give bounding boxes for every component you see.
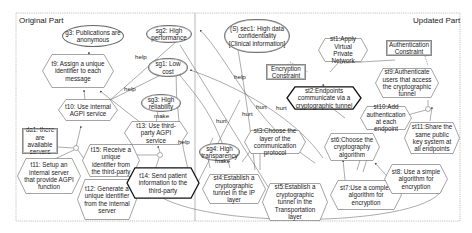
updated-part-title: Updated Part bbox=[413, 16, 460, 25]
task-t9[interactable]: t9: Assign a unique identifier to each m… bbox=[42, 54, 114, 88]
task-t10[interactable]: t10: Use internal AGPI service bbox=[58, 99, 118, 121]
softgoal-sg2[interactable]: sg2: High performance bbox=[146, 25, 192, 43]
security-task-st5[interactable]: st5:Establish a cryptographic tunnel in … bbox=[262, 183, 328, 221]
goal-model-diagram: Original Part Updated Part g3: Publicati… bbox=[0, 0, 472, 233]
security-task-st3[interactable]: st3:Choose the layer of the communicatio… bbox=[244, 130, 306, 154]
edge-label-make: make bbox=[154, 112, 169, 119]
security-task-st1[interactable]: st1:Apply Virtual Private Network bbox=[318, 38, 368, 62]
security-task-st2[interactable]: st2:Endpoints communicate via a cryptogr… bbox=[286, 86, 362, 110]
softgoal-sg3[interactable]: sg3: High reliability bbox=[141, 94, 181, 112]
edge-label-help: help bbox=[178, 138, 190, 145]
edge-label-hurt: hurt bbox=[256, 103, 267, 110]
task-t14[interactable]: t14: Send patient information to the thi… bbox=[126, 167, 200, 199]
edge-label-help: help bbox=[124, 85, 136, 92]
edge-label-make: make bbox=[215, 157, 230, 164]
security-task-st11[interactable]: st11:Share the same public key system at… bbox=[404, 122, 460, 154]
edge-label-hurt: hurt bbox=[216, 117, 227, 124]
edge-label-hurt: hurt bbox=[242, 110, 253, 117]
security-task-st9[interactable]: st9:Authenticate users that access the c… bbox=[375, 68, 439, 98]
goal-g3[interactable]: g3: Publications are anonymous bbox=[62, 25, 124, 47]
edge-label-help: help bbox=[234, 73, 246, 80]
edge-label-hurt: hurt bbox=[276, 104, 287, 111]
edge-label-help: help bbox=[135, 53, 147, 60]
original-part-title: Original Part bbox=[19, 16, 63, 25]
security-task-st6[interactable]: st6:Choose the cryptography algorithm bbox=[324, 133, 380, 161]
softgoal-sg1[interactable]: sg1: Low cost bbox=[148, 58, 188, 77]
domain-assumption-da1[interactable]: da1: there are available servers bbox=[22, 128, 58, 154]
security-task-st8[interactable]: st8: Use a simple algorithm for encrypti… bbox=[384, 164, 448, 194]
security-task-st4[interactable]: st4:Establish a cryptographic tunnel in … bbox=[202, 174, 266, 204]
authentication-constraint[interactable]: Authentication Constraint bbox=[386, 40, 432, 56]
security-goal-sec1[interactable]: (S) sec1: High data confidentiality [Cli… bbox=[224, 19, 290, 53]
task-t11[interactable]: t11: Setup an internal server that provi… bbox=[17, 158, 81, 194]
encryption-constraint[interactable]: Encryption Constraint bbox=[266, 64, 306, 80]
